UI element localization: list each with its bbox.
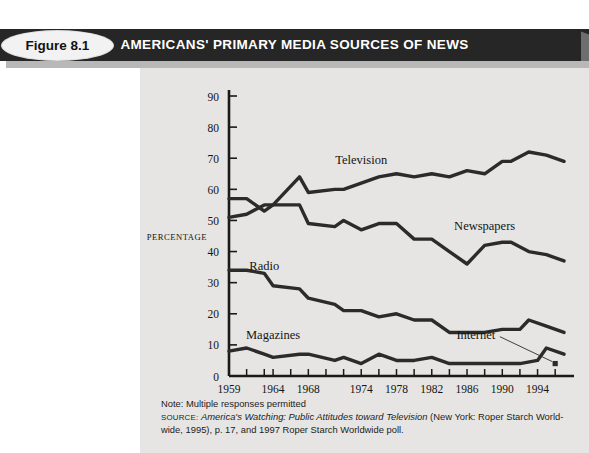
y-axis-tick-label: 70 [208, 153, 220, 165]
y-axis-tick-label: 0 [213, 371, 219, 383]
y-axis-tick-label: 40 [208, 246, 220, 258]
y-axis-tick-label: 50 [208, 215, 220, 227]
x-axis-tick-label: 1964 [262, 383, 285, 393]
y-axis-tick-label: 60 [208, 184, 220, 196]
caption-note: Note: Multiple responses permitted [161, 398, 571, 410]
figure-caption: Note: Multiple responses permitted SOURC… [161, 398, 571, 437]
series-label-television: Television [335, 153, 388, 167]
caption-source-prefix: SOURCE: [161, 413, 198, 422]
series-line-radio [229, 270, 564, 332]
series-label-magazines: Magazines [246, 328, 300, 342]
caption-source-line2: wide, 1995), p. 17, and 1997 Roper Starc… [161, 424, 571, 436]
series-label-radio: Radio [249, 259, 279, 273]
y-axis-tick-label: 90 [208, 91, 220, 103]
series-label-internet: Internet [456, 328, 495, 342]
series-line-television [229, 152, 564, 217]
x-axis-tick-label: 1990 [491, 383, 514, 393]
y-axis-tick-label: 10 [208, 339, 220, 351]
caption-source-rest: (New York: Roper Starch World- [428, 411, 564, 422]
y-axis-tick-label: 80 [208, 122, 220, 134]
x-axis-tick-label: 1986 [456, 383, 479, 393]
line-chart-svg: 0102030405060708090195919641968197419781… [140, 68, 589, 393]
x-axis-tick-label: 1968 [297, 383, 320, 393]
x-axis-tick-label: 1994 [526, 383, 549, 393]
y-axis-tick-label: 30 [208, 277, 220, 289]
series-line-magazines [229, 348, 564, 364]
caption-source: SOURCE: America's Watching: Public Attit… [161, 411, 571, 424]
y-axis-tick-label: 20 [208, 308, 220, 320]
series-label-newspapers: Newspapers [454, 219, 515, 233]
x-axis-tick-label: 1982 [420, 383, 443, 393]
series-marker-internet [553, 361, 558, 366]
x-axis-tick-label: 1978 [385, 383, 408, 393]
figure-header-bar-shadow [6, 61, 589, 68]
figure-container: AMERICANS' PRIMARY MEDIA SOURCES OF NEWS… [0, 0, 589, 453]
chart-plot-area: 0102030405060708090195919641968197419781… [140, 68, 589, 393]
x-axis-tick-label: 1974 [350, 383, 373, 393]
caption-source-title: America's Watching: Public Attitudes tow… [201, 411, 428, 422]
figure-number-label: Figure 8.1 [2, 31, 113, 60]
x-axis-tick-label: 1959 [218, 383, 241, 393]
y-axis-title: PERCENTAGE [147, 232, 207, 242]
